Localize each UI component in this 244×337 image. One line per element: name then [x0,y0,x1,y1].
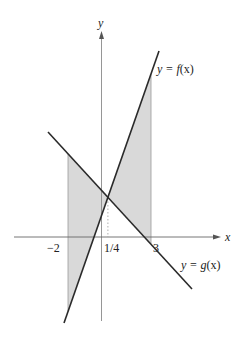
shaded-region-right [108,74,151,244]
x-axis-label: x [224,230,231,244]
curve-g-label-prefix: y = [180,258,200,272]
tick-label-3: 3 [153,241,159,255]
curve-f-label-arg: (x) [180,62,194,76]
x-axis-arrow-icon [213,235,221,240]
curve-g-label-arg: (x) [206,258,220,272]
area-between-curves-diagram: y x −2 1/4 3 y = f(x) y = g(x) [0,0,244,337]
curve-f-label-prefix: y = [156,62,176,76]
tick-label-one-quarter: 1/4 [104,241,119,255]
curve-g-label: y = g(x) [180,258,220,272]
y-axis-arrow-icon [99,31,104,39]
curve-f-label: y = f(x) [156,62,194,76]
y-axis-label: y [97,16,104,30]
tick-label-minus-2: −2 [47,241,60,255]
